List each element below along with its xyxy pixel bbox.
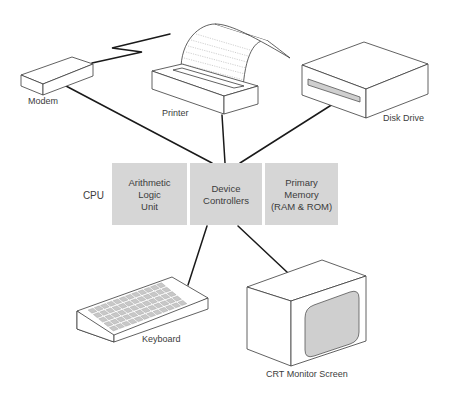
monitor-label: CRT Monitor Screen <box>266 369 348 379</box>
cpu-label: CPU <box>83 190 104 201</box>
disk-drive-label: Disk Drive <box>383 113 424 123</box>
printer-device: Printer <box>152 24 290 118</box>
device-controllers-block: Device Controllers <box>190 163 262 225</box>
wire-printer <box>222 115 225 163</box>
controllers-line-2: Controllers <box>203 195 249 206</box>
crt-monitor-device: CRT Monitor Screen <box>247 260 366 379</box>
wire-modem-zigzag <box>92 34 170 63</box>
wire-monitor <box>238 226 288 273</box>
controllers-line-1: Device <box>211 183 240 194</box>
keyboard-label: Keyboard <box>142 334 181 344</box>
memory-line-1: Primary <box>285 177 318 188</box>
computer-system-diagram: Modem Printer Disk Drive CPU <box>0 0 452 394</box>
modem-device: Modem <box>21 57 93 106</box>
keyboard-device: Keyboard <box>77 277 208 344</box>
alu-line-1: Arithmetic <box>128 177 170 188</box>
printer-label: Printer <box>162 108 189 118</box>
alu-line-3: Unit <box>141 201 158 212</box>
monitor-side <box>247 287 291 366</box>
alu-block: Arithmetic Logic Unit <box>112 163 187 225</box>
modem-label: Modem <box>28 96 58 106</box>
wire-disk-drive <box>240 104 333 163</box>
primary-memory-block: Primary Memory (RAM & ROM) <box>265 163 338 225</box>
wire-keyboard <box>188 226 207 285</box>
cpu-group: CPU Arithmetic Logic Unit Device Control… <box>83 163 338 225</box>
alu-line-2: Logic <box>138 189 161 200</box>
memory-line-3: (RAM & ROM) <box>271 201 332 212</box>
memory-line-2: Memory <box>284 189 319 200</box>
